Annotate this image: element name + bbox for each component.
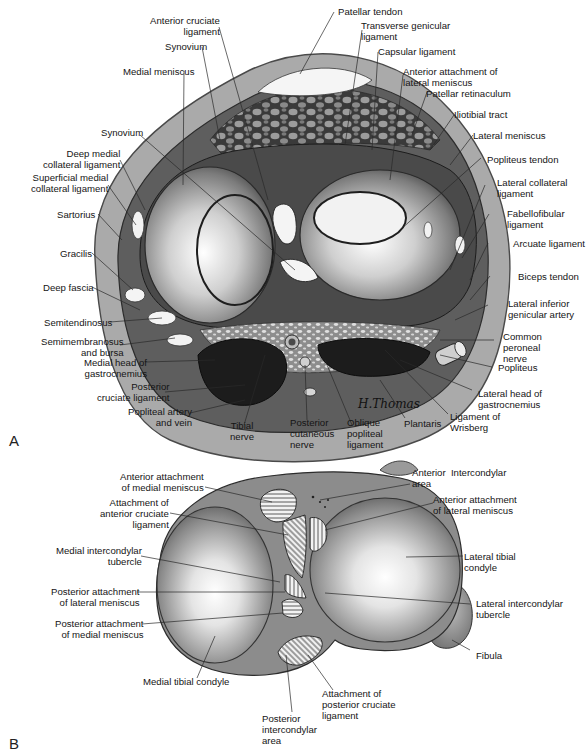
label-biceps-tendon: Biceps tendon (518, 271, 579, 282)
label-medial-head-gastrocnemius: Medial head of gastrocnemius (84, 357, 147, 379)
label-medial-meniscus: Medial meniscus (123, 66, 194, 77)
panel-letter-a: A (9, 432, 19, 449)
label-lateral-meniscus: Lateral meniscus (473, 130, 546, 141)
label-posterior-attachment-medial-meniscus: Posterior attachment of medial meniscus (55, 618, 144, 640)
label-popliteus-tendon: Popliteus tendon (487, 154, 558, 165)
label-fibula: Fibula (476, 650, 502, 661)
label-popliteus: Popliteus (498, 362, 537, 373)
panel-b-tibial-plateau (157, 461, 473, 675)
label-posterior-cutaneous-nerve: Posterior cutaneous nerve (290, 417, 334, 450)
label-lateral-collateral-ligament: Lateral collateral ligament (497, 177, 567, 199)
label-semimembranosus-and-bursa: Semimembranosus and bursa (41, 336, 124, 358)
label-popliteal-artery-and-vein: Popliteal artery and vein (128, 406, 192, 428)
label-common-peroneal-nerve: Common peroneal nerve (503, 331, 542, 364)
label-posterior-intercondylar-area: Posterior intercondylar area (262, 713, 317, 746)
label-capsular-ligament: Capsular ligament (378, 46, 455, 57)
label-posterior-attachment-lateral-meniscus: Posterior attachment of lateral meniscus (51, 586, 140, 608)
label-semitendinosus: Semitendinosus (44, 317, 112, 328)
label-fabellofibular-ligament: Fabellofibular ligament (507, 208, 565, 230)
label-oblique-popliteal-ligament: Oblique popliteal ligament (347, 417, 383, 450)
label-iliotibial-tract: Iliotibial tract (454, 109, 507, 120)
label-attachment-posterior-cruciate-ligament: Attachment of posterior cruciate ligamen… (322, 688, 396, 721)
label-synovium-left: Synovium (101, 127, 143, 138)
label-sartorius: Sartorius (57, 209, 95, 220)
panel-letter-b: B (9, 735, 19, 752)
label-patellar-tendon: Patellar tendon (338, 6, 403, 17)
label-medial-intercondylar-tubercle: Medial intercondylar tubercle (56, 545, 142, 567)
label-gracilis: Gracilis (60, 248, 92, 259)
label-anterior-attachment-lateral-meniscus-b: Anterior attachment of lateral meniscus (433, 494, 517, 516)
label-tibial-nerve: Tibial nerve (230, 420, 254, 442)
label-lateral-head-gastrocnemius: Lateral head of gastrocnemius (478, 388, 542, 410)
label-superficial-medial-collateral-ligament: Superficial medial collateral ligament (31, 172, 108, 194)
label-synovium-top: Synovium (165, 41, 207, 52)
label-lateral-inferior-genicular-artery: Lateral inferior genicular artery (508, 298, 574, 320)
label-anterior-intercondylar-area: Anterior Intercondylar area (412, 467, 506, 489)
label-arcuate-ligament: Arcuate ligament (513, 238, 585, 249)
label-ligament-of-wrisberg: Ligament of Wrisberg (450, 411, 500, 433)
label-transverse-genicular-ligament: Transverse genicular ligament (361, 20, 450, 42)
artist-signature: H.Thomas (357, 397, 420, 411)
label-deep-fascia: Deep fascia (43, 282, 94, 293)
label-anterior-cruciate-ligament: Anterior cruciate ligament (150, 15, 220, 37)
label-medial-tibial-condyle: Medial tibial condyle (143, 676, 229, 687)
label-posterior-cruciate-ligament: Posterior cruciate ligament (97, 381, 170, 403)
label-patellar-retinaculum: Patellar retinaculum (426, 88, 511, 99)
label-anterior-attachment-medial-meniscus: Anterior attachment of medial meniscus (120, 471, 204, 493)
label-lateral-tibial-condyle: Lateral tibial condyle (464, 551, 516, 573)
label-attachment-anterior-cruciate-ligament: Attachment of anterior cruciate ligament (100, 497, 169, 530)
label-plantaris: Plantaris (404, 418, 441, 429)
label-anterior-attachment-lateral-meniscus: Anterior attachment of lateral meniscus (403, 66, 497, 88)
label-deep-medial-collateral-ligament: Deep medial collateral ligament (43, 148, 120, 170)
label-lateral-intercondylar-tubercle: Lateral intercondylar tubercle (476, 598, 563, 620)
